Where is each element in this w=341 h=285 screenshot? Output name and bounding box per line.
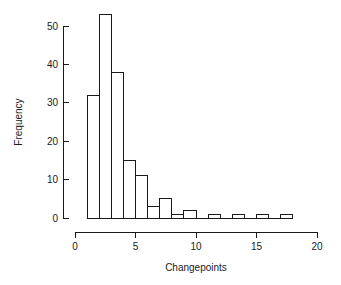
histogram-bar (281, 214, 293, 218)
x-axis: 05101520 (72, 232, 323, 252)
histogram-bar (160, 199, 172, 218)
histogram-plot: 01020304050 05101520 Changepoints Freque… (0, 0, 341, 285)
histogram-bar (87, 95, 99, 218)
x-axis-title: Changepoints (165, 262, 227, 273)
y-axis-title: Frequency (13, 98, 24, 145)
histogram-screenshot: 01020304050 05101520 Changepoints Freque… (0, 0, 341, 285)
y-tick-label: 10 (47, 174, 59, 185)
y-axis: 01020304050 (47, 21, 69, 224)
histogram-bar (232, 214, 244, 218)
y-tick-label: 0 (52, 213, 58, 224)
y-tick-label: 40 (47, 59, 59, 70)
y-axis-tick-labels: 01020304050 (47, 21, 59, 224)
histogram-bar (208, 214, 220, 218)
histogram-bars (87, 14, 293, 218)
histogram-bar (123, 160, 135, 218)
x-tick-label: 5 (133, 241, 139, 252)
x-tick-label: 20 (311, 241, 323, 252)
x-tick-label: 10 (190, 241, 202, 252)
x-tick-label: 0 (72, 241, 78, 252)
histogram-bar (184, 210, 196, 218)
y-axis-ticks (63, 26, 69, 218)
histogram-bar (111, 72, 123, 218)
histogram-bar (99, 14, 111, 218)
histogram-bar (148, 206, 160, 218)
histogram-bar (136, 176, 148, 218)
y-tick-label: 20 (47, 136, 59, 147)
x-axis-tick-labels: 05101520 (72, 241, 323, 252)
y-tick-label: 30 (47, 97, 59, 108)
histogram-bar (257, 214, 269, 218)
x-tick-label: 15 (251, 241, 263, 252)
x-axis-ticks (75, 232, 317, 238)
histogram-bar (172, 214, 184, 218)
y-tick-label: 50 (47, 21, 59, 32)
